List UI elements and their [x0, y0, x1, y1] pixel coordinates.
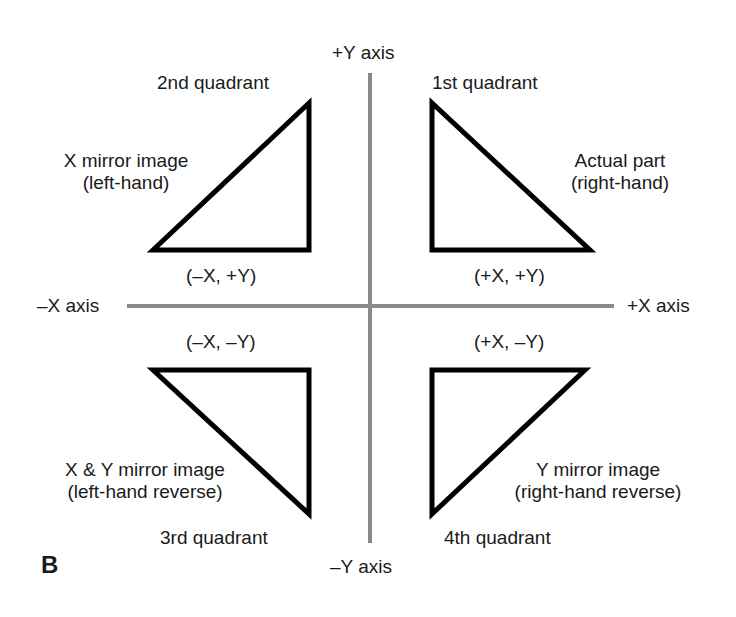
quadrant-3-desc-line2: (left-hand reverse): [30, 481, 260, 503]
quadrant-4-desc-line2: (right-hand reverse): [483, 481, 713, 503]
quadrant-1-description: Actual part (right-hand): [540, 150, 700, 194]
quadrant-4-desc-line1: Y mirror image: [483, 459, 713, 481]
quadrant-1-desc-line2: (right-hand): [540, 172, 700, 194]
quadrant-3-name: 3rd quadrant: [160, 527, 268, 549]
quadrant-3-desc-line1: X & Y mirror image: [30, 459, 260, 481]
quadrant-4-name: 4th quadrant: [444, 527, 551, 549]
quadrant-1-coords: (+X, +Y): [474, 265, 545, 287]
quadrant-1-desc-line1: Actual part: [540, 150, 700, 172]
quadrant-2-desc-line2: (left-hand): [36, 172, 216, 194]
quadrant-2-description: X mirror image (left-hand): [36, 150, 216, 194]
quadrant-2-desc-line1: X mirror image: [36, 150, 216, 172]
quadrant-2-name: 2nd quadrant: [157, 72, 269, 94]
quadrant-1-name: 1st quadrant: [432, 72, 538, 94]
panel-label: B: [41, 551, 58, 579]
quadrant-3-description: X & Y mirror image (left-hand reverse): [30, 459, 260, 503]
quadrant-4-coords: (+X, –Y): [474, 331, 544, 353]
quadrant-3-coords: (–X, –Y): [186, 331, 256, 353]
quadrant-2-coords: (–X, +Y): [186, 265, 256, 287]
quadrant-triangles: [0, 0, 736, 617]
quadrant-4-description: Y mirror image (right-hand reverse): [483, 459, 713, 503]
